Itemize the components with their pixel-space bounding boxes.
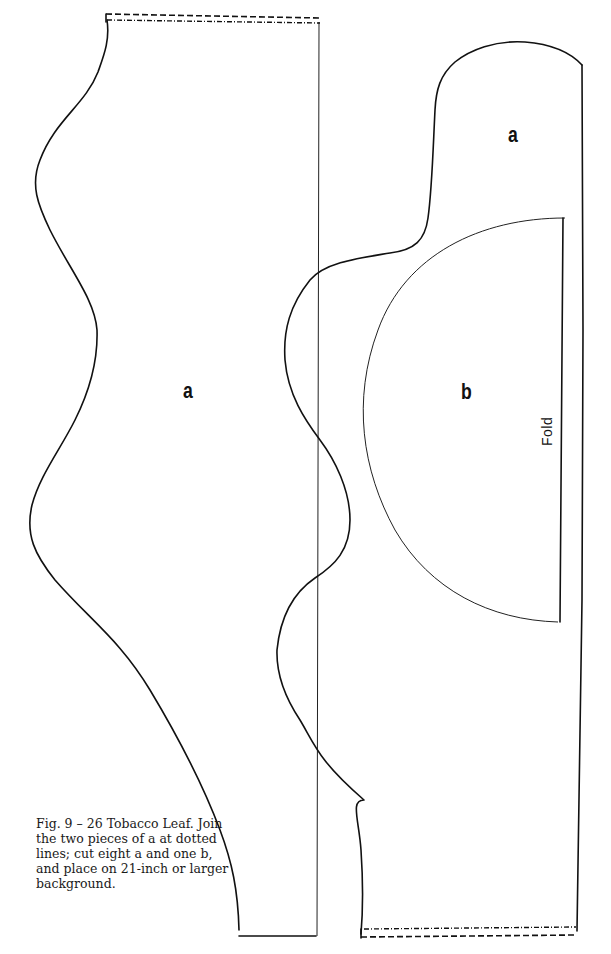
piece-a-left-outline <box>30 14 320 936</box>
pattern-figure: a a b Fold Fig. 9 – 26 Tobacco Leaf. Joi… <box>0 0 611 954</box>
fold-label: Fold <box>539 417 555 446</box>
figure-caption: Fig. 9 – 26 Tobacco Leaf. Join the two p… <box>36 816 236 891</box>
piece-a-lower-label: a <box>183 380 193 402</box>
piece-b-label: b <box>461 381 472 403</box>
piece-a-upper-label: a <box>508 124 518 146</box>
piece-b-outline <box>363 218 565 622</box>
piece-a-right-outline <box>277 42 583 938</box>
pattern-drawing <box>0 0 611 954</box>
